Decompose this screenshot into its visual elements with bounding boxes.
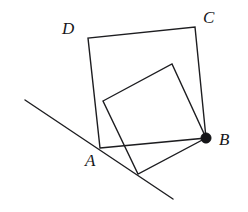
geometry-figure: D C A B <box>0 0 248 212</box>
vertex-label-c: C <box>203 9 214 26</box>
inner-rotated-square <box>103 64 206 174</box>
figure-canvas <box>0 0 248 212</box>
transversal-line <box>25 100 173 199</box>
outer-square-abcd <box>88 27 206 148</box>
vertex-label-a: A <box>85 152 95 169</box>
vertex-label-b: B <box>219 131 229 148</box>
vertex-label-d: D <box>62 20 74 37</box>
point-b-marker-dot <box>201 133 211 143</box>
